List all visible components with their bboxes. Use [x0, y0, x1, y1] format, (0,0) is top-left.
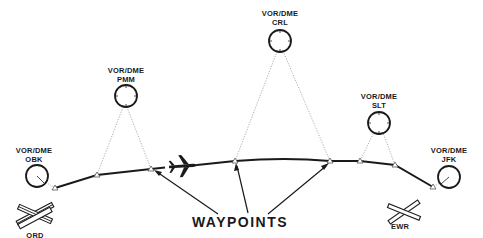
radial-crl-1 — [235, 44, 280, 161]
callout-arrow — [157, 172, 218, 214]
arrowhead — [234, 163, 239, 171]
callout-arrow — [268, 166, 326, 214]
waypoint-callout-arrows — [154, 163, 329, 214]
vor-id-label: PMM — [117, 75, 135, 84]
vor-compass-icon — [115, 85, 137, 107]
vor-type-label: VOR/DME — [16, 146, 52, 155]
diagram-canvas: VOR/DME OBK VOR/DME PMM VOR/DME CRL VOR/… — [0, 0, 483, 238]
vor-type-label: VOR/DME — [431, 146, 467, 155]
radial-crl-2 — [280, 44, 330, 161]
radial-pmm-1 — [97, 102, 125, 175]
vor-type-label: VOR/DME — [262, 9, 298, 18]
vor-station-obk: VOR/DME OBK — [16, 146, 52, 187]
vor-station-slt: VOR/DME SLT — [361, 92, 397, 134]
callout-arrow — [237, 166, 248, 213]
vor-station-pmm: VOR/DME PMM — [108, 66, 144, 107]
vor-compass-icon — [269, 30, 291, 52]
vor-station-crl: VOR/DME CRL — [262, 9, 298, 52]
vor-type-label: VOR/DME — [361, 92, 397, 101]
vor-id-label: JFK — [442, 155, 457, 164]
rnav-waypoints-diagram: VOR/DME OBK VOR/DME PMM VOR/DME CRL VOR/… — [0, 0, 483, 238]
vor-compass-icon — [368, 112, 390, 134]
airport-ewr: EWR — [387, 200, 420, 231]
vor-station-jfk: VOR/DME JFK — [431, 146, 467, 188]
vor-type-label: VOR/DME — [108, 66, 144, 75]
vor-id-label: SLT — [372, 101, 386, 110]
airport-id-label: ORD — [26, 231, 44, 238]
waypoints-label: WAYPOINTS — [192, 214, 288, 230]
flight-track — [55, 159, 433, 188]
airport-id-label: EWR — [391, 222, 409, 231]
vor-id-label: OBK — [25, 155, 43, 164]
runway-icon — [16, 202, 54, 228]
vor-id-label: CRL — [272, 18, 288, 27]
radial-pmm-2 — [125, 102, 151, 169]
airport-ord: ORD — [16, 202, 54, 238]
airplane-icon — [168, 154, 198, 178]
runway-icon — [387, 200, 420, 224]
